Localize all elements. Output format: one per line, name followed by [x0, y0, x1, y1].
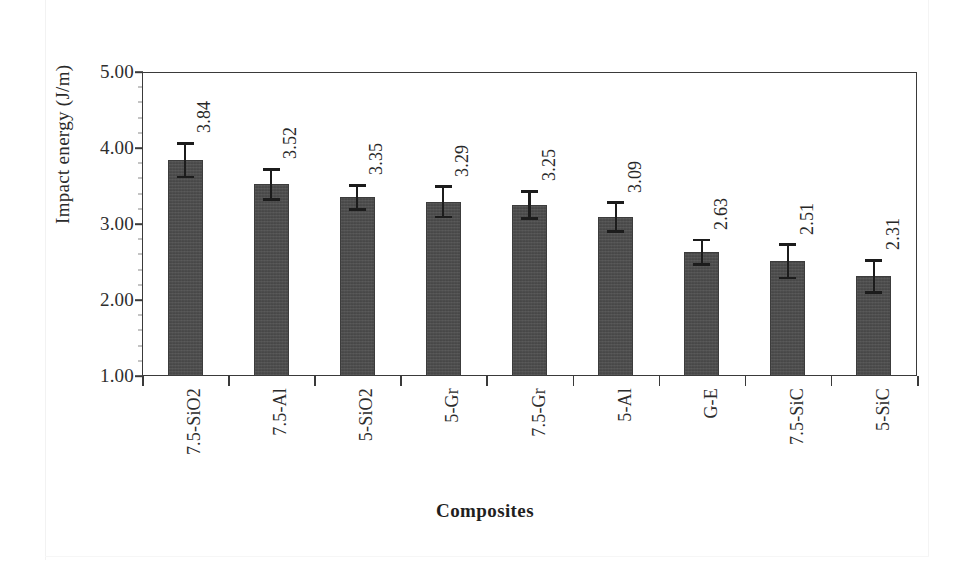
bar-value-label: 3.35	[366, 175, 398, 196]
x-axis-tick-mark	[228, 376, 230, 386]
bar-value-label-text: 2.31	[883, 218, 904, 250]
bar-value-label: 3.52	[280, 159, 312, 180]
scan-page-edge-left	[45, 0, 46, 560]
x-axis-tick-mark	[659, 376, 661, 386]
bar-value-label: 2.63	[711, 230, 743, 251]
y-axis-tick-label: 1.00	[100, 365, 134, 387]
x-axis-category-label-text: 7.5-Al	[270, 388, 291, 436]
bar-value-label-text: 3.29	[452, 144, 473, 176]
x-axis-category-label: G-E	[711, 388, 742, 409]
error-bar-stem	[270, 169, 272, 199]
x-axis-tick-mark	[917, 376, 919, 386]
bar-value-label-text: 2.51	[797, 202, 818, 234]
y-axis-tick-labels: 5.004.003.002.001.00	[78, 0, 134, 585]
error-bar-cap-upper	[865, 259, 882, 262]
error-bar-cap-upper	[435, 185, 452, 188]
x-axis-tick-mark	[400, 376, 402, 386]
error-bar-cap-lower	[263, 198, 280, 201]
bar-value-label: 3.84	[194, 133, 226, 154]
error-bar-cap-upper	[607, 201, 624, 204]
x-axis-title: Composites	[0, 500, 970, 522]
bar-value-label: 2.51	[797, 235, 829, 256]
bar	[684, 252, 719, 376]
bar	[512, 205, 547, 376]
x-axis-category-label-text: 5-Gr	[442, 388, 463, 423]
x-axis-tick-mark	[314, 376, 316, 386]
y-axis-tick-label: 5.00	[100, 61, 134, 83]
x-axis-tick-mark	[573, 376, 575, 386]
x-axis-category-label: 5-Al	[625, 388, 659, 409]
x-axis-category-label-text: 7.5-Gr	[528, 388, 549, 437]
bar	[426, 202, 461, 376]
x-axis-category-label-text: 7.5-SiO2	[184, 388, 205, 455]
error-bar-stem	[528, 191, 530, 218]
error-bar-cap-upper	[693, 239, 710, 242]
error-bar-cap-lower	[607, 230, 624, 233]
error-bar-cap-upper	[263, 168, 280, 171]
error-bar-cap-lower	[521, 217, 538, 220]
y-axis-tick-label: 2.00	[100, 289, 134, 311]
error-bar-cap-lower	[693, 263, 710, 266]
x-axis-category-label: 7.5-SiC	[797, 388, 854, 409]
x-axis-category-label: 7.5-Gr	[539, 388, 588, 409]
scan-page-edge-bottom	[45, 556, 929, 557]
bar-value-label-text: 2.63	[711, 198, 732, 230]
bar-value-label-text: 3.09	[625, 160, 646, 192]
x-axis-category-label: 5-SiC	[883, 388, 926, 409]
error-bar-cap-lower	[865, 291, 882, 294]
bar-value-label: 2.31	[883, 250, 915, 271]
error-bar-stem	[442, 187, 444, 217]
x-axis-category-label-text: 7.5-SiC	[786, 388, 807, 445]
bar-value-label-text: 3.52	[280, 127, 301, 159]
x-axis-category-label: 5-Gr	[452, 388, 487, 409]
bar-value-label: 3.09	[625, 193, 657, 214]
error-bar-cap-upper	[177, 142, 194, 145]
error-bar-stem	[787, 245, 789, 278]
x-axis-category-label-text: 5-SiO2	[356, 388, 377, 441]
error-bar-stem	[701, 240, 703, 264]
x-axis-tick-mark	[486, 376, 488, 386]
y-axis-title: Impact energy (J/m)	[52, 65, 74, 224]
error-bar-cap-lower	[435, 216, 452, 219]
x-axis-category-label-text: 5-Al	[614, 388, 635, 422]
x-axis-category-label-text: G-E	[700, 388, 721, 419]
bar	[254, 184, 289, 376]
bar-value-label-text: 3.84	[194, 101, 215, 133]
error-bar-cap-lower	[177, 176, 194, 179]
bar-value-label-text: 3.35	[366, 143, 387, 175]
bar-value-label: 3.29	[452, 177, 484, 198]
x-axis-category-label: 5-SiO2	[366, 388, 419, 409]
error-bar-stem	[184, 143, 186, 176]
error-bar-cap-lower	[349, 208, 366, 211]
error-bar-cap-lower	[779, 277, 796, 280]
error-bar-stem	[873, 260, 875, 292]
y-axis-tick-label: 4.00	[100, 137, 134, 159]
bar	[598, 217, 633, 376]
bar-value-label-text: 3.25	[539, 149, 560, 181]
x-axis-tick-mark	[745, 376, 747, 386]
error-bar-cap-upper	[349, 184, 366, 187]
x-axis-tick-mark	[142, 376, 144, 386]
bar	[168, 160, 203, 376]
error-bar-cap-upper	[521, 190, 538, 193]
x-axis-tick-mark	[831, 376, 833, 386]
error-bar-stem	[615, 203, 617, 232]
x-axis-category-label: 7.5-Al	[280, 388, 328, 409]
bar	[340, 197, 375, 376]
error-bar-cap-upper	[779, 243, 796, 246]
x-axis-category-label-text: 5-SiC	[872, 388, 893, 431]
scan-page-edge-right	[928, 0, 929, 556]
error-bar-stem	[356, 185, 358, 209]
y-axis-tick-label: 3.00	[100, 213, 134, 235]
bar-value-label: 3.25	[539, 181, 571, 202]
x-axis-category-label: 7.5-SiO2	[194, 388, 261, 409]
impact-energy-bar-chart-figure: Impact energy (J/m) 5.004.003.002.001.00…	[0, 0, 970, 585]
